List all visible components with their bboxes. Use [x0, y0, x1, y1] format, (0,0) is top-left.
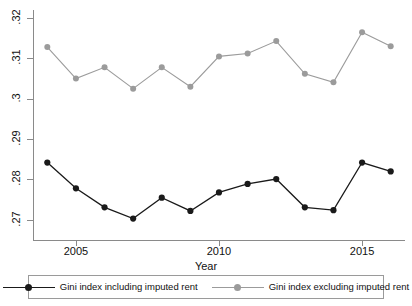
data-point-marker: [130, 86, 136, 92]
data-point-marker: [44, 159, 50, 165]
data-point-marker: [302, 204, 308, 210]
data-point-marker: [187, 208, 193, 214]
data-point-marker: [388, 43, 394, 49]
data-point-marker: [216, 189, 222, 195]
data-point-marker: [273, 176, 279, 182]
legend-label-excluding: Gini index excluding imputed rent: [269, 282, 409, 292]
data-point-marker: [73, 76, 79, 82]
data-point-marker: [187, 84, 193, 90]
series-line: [47, 32, 390, 88]
data-point-marker: [159, 195, 165, 201]
legend-label-including: Gini index including imputed rent: [60, 282, 198, 292]
series-including-imputed-rent: [44, 159, 394, 221]
data-point-marker: [273, 38, 279, 44]
data-point-marker: [216, 53, 222, 59]
data-point-marker: [302, 71, 308, 77]
legend-entry-excluding[interactable]: Gini index excluding imputed rent: [212, 282, 409, 292]
series-excluding-imputed-rent: [44, 29, 393, 91]
series-plot: [0, 0, 412, 306]
data-point-marker: [330, 207, 336, 213]
data-point-marker: [245, 181, 251, 187]
legend-entry-including[interactable]: Gini index including imputed rent: [3, 282, 198, 292]
legend-swatch-including-icon: [3, 282, 55, 292]
chart-legend: Gini index including imputed rent Gini i…: [28, 275, 384, 299]
data-point-marker: [359, 159, 365, 165]
data-point-marker: [73, 185, 79, 191]
data-point-marker: [130, 216, 136, 222]
data-point-marker: [101, 204, 107, 210]
data-point-marker: [245, 51, 251, 57]
data-point-marker: [330, 79, 336, 85]
legend-swatch-excluding-icon: [212, 282, 264, 292]
data-point-marker: [388, 168, 394, 174]
data-point-marker: [159, 64, 165, 70]
data-point-marker: [102, 64, 108, 70]
data-point-marker: [359, 29, 365, 35]
data-point-marker: [44, 44, 50, 50]
gini-index-line-chart: .27.28.29.3.31.32 200520102015 Year Gini…: [0, 0, 412, 306]
